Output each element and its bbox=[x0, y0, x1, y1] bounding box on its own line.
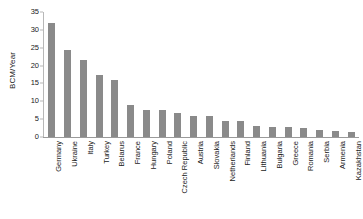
x-axis-category-slot: Italy bbox=[76, 139, 92, 217]
bar bbox=[111, 80, 118, 137]
x-axis-category-slot: France bbox=[123, 139, 139, 217]
bar bbox=[96, 75, 103, 138]
x-axis-category-slot: Germany bbox=[44, 139, 60, 217]
plot-area: 05101520253035 bbox=[20, 12, 360, 142]
x-axis-category-slot: Bulgaria bbox=[265, 139, 281, 217]
bar-slot bbox=[249, 12, 265, 137]
y-axis-tick-label: 15 bbox=[31, 80, 39, 88]
bar bbox=[332, 131, 339, 137]
y-axis-tick-label: 5 bbox=[35, 115, 39, 123]
bar-slot bbox=[123, 12, 139, 137]
bar bbox=[316, 130, 323, 137]
y-axis-tick-label: 35 bbox=[31, 8, 39, 16]
y-axis-title: BCM/Year bbox=[2, 0, 22, 140]
x-axis-category-slot: Romania bbox=[296, 139, 312, 217]
x-axis-category-slot: Turkey bbox=[91, 139, 107, 217]
bar-slot bbox=[296, 12, 312, 137]
x-axis-category-slot: Slovakia bbox=[202, 139, 218, 217]
y-axis-tick-labels: 05101520253035 bbox=[20, 12, 41, 137]
x-axis-category-slot: Austria bbox=[186, 139, 202, 217]
bar bbox=[143, 110, 150, 137]
bar-slot bbox=[312, 12, 328, 137]
y-axis-tick-label: 0 bbox=[35, 133, 39, 141]
bar bbox=[285, 127, 292, 137]
x-axis-category-slot: Serbia bbox=[312, 139, 328, 217]
bar bbox=[190, 116, 197, 137]
y-axis-tick-label: 10 bbox=[31, 98, 39, 106]
bar-slot bbox=[217, 12, 233, 137]
y-axis-title-label: BCM/Year bbox=[8, 52, 17, 89]
bar-chart: BCM/Year 05101520253035 GermanyUkraineIt… bbox=[0, 0, 363, 219]
x-axis-category-slot: Finland bbox=[233, 139, 249, 217]
bar bbox=[80, 60, 87, 137]
x-axis-line bbox=[43, 137, 359, 138]
bar-slot bbox=[170, 12, 186, 137]
bar-slot bbox=[343, 12, 359, 137]
bar-slot bbox=[76, 12, 92, 137]
bar-slot bbox=[91, 12, 107, 137]
x-axis-category-label: Kazakhstan bbox=[355, 141, 363, 180]
y-axis-tick-label: 20 bbox=[31, 62, 39, 70]
bar bbox=[64, 50, 71, 138]
bar-slot bbox=[107, 12, 123, 137]
bar bbox=[253, 126, 260, 137]
bar-slot bbox=[139, 12, 155, 137]
x-axis-category-slot: Poland bbox=[154, 139, 170, 217]
bar bbox=[174, 113, 181, 137]
bar bbox=[269, 127, 276, 137]
bar bbox=[300, 128, 307, 137]
bar-slot bbox=[154, 12, 170, 137]
bar bbox=[127, 105, 134, 137]
bar-slot bbox=[44, 12, 60, 137]
x-axis-category-slot: Lithuania bbox=[249, 139, 265, 217]
bar bbox=[206, 116, 213, 137]
bar-slot bbox=[233, 12, 249, 137]
bar-slot bbox=[280, 12, 296, 137]
x-axis-category-slot: Hungary bbox=[139, 139, 155, 217]
bar bbox=[348, 132, 355, 137]
x-axis-category-slot: Greece bbox=[280, 139, 296, 217]
x-axis-category-slot: Kazakhstan bbox=[343, 139, 359, 217]
bar bbox=[237, 121, 244, 137]
bar-series bbox=[44, 12, 359, 137]
x-axis-category-slot: Belarus bbox=[107, 139, 123, 217]
bar-slot bbox=[186, 12, 202, 137]
bar bbox=[48, 23, 55, 137]
x-axis-category-labels: GermanyUkraineItalyTurkeyBelarusFranceHu… bbox=[44, 139, 359, 217]
y-axis-tick-label: 30 bbox=[31, 26, 39, 34]
x-axis-category-slot: Netherlands bbox=[217, 139, 233, 217]
bar-slot bbox=[265, 12, 281, 137]
bar bbox=[222, 121, 229, 137]
bar-slot bbox=[328, 12, 344, 137]
x-axis-category-slot: Armenia bbox=[328, 139, 344, 217]
bar bbox=[159, 110, 166, 137]
bar-slot bbox=[202, 12, 218, 137]
x-axis-category-slot: Czech Republic bbox=[170, 139, 186, 217]
bar-slot bbox=[60, 12, 76, 137]
y-axis-tick-label: 25 bbox=[31, 44, 39, 52]
x-axis-category-slot: Ukraine bbox=[60, 139, 76, 217]
